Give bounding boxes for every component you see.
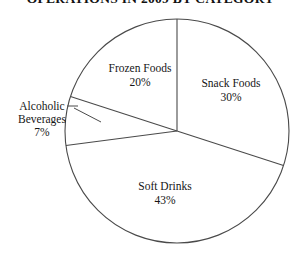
pie-chart-figure: OPERATIONS IN 2009 BY CATEGORY Frozen Fo…: [0, 0, 301, 262]
slice-label-alcoholic-beverages-line2: Beverages: [2, 113, 82, 126]
slice-label-snack-foods: Snack Foods 30%: [188, 77, 274, 104]
slice-label-frozen-foods-name: Frozen Foods: [109, 62, 172, 74]
slice-label-alcoholic-beverages: Alcoholic Beverages 7%: [2, 100, 82, 139]
slice-label-frozen-foods: Frozen Foods 20%: [96, 62, 184, 89]
slice-value-snack-foods: 30%: [188, 91, 274, 105]
slice-value-alcoholic-beverages: 7%: [2, 126, 82, 139]
slice-value-soft-drinks: 43%: [112, 194, 218, 208]
slice-label-soft-drinks: Soft Drinks 43%: [112, 180, 218, 207]
slice-label-alcoholic-beverages-line1: Alcoholic: [19, 100, 64, 112]
slice-label-snack-foods-name: Snack Foods: [201, 77, 260, 89]
slice-label-soft-drinks-name: Soft Drinks: [138, 180, 191, 192]
slice-value-frozen-foods: 20%: [96, 76, 184, 90]
